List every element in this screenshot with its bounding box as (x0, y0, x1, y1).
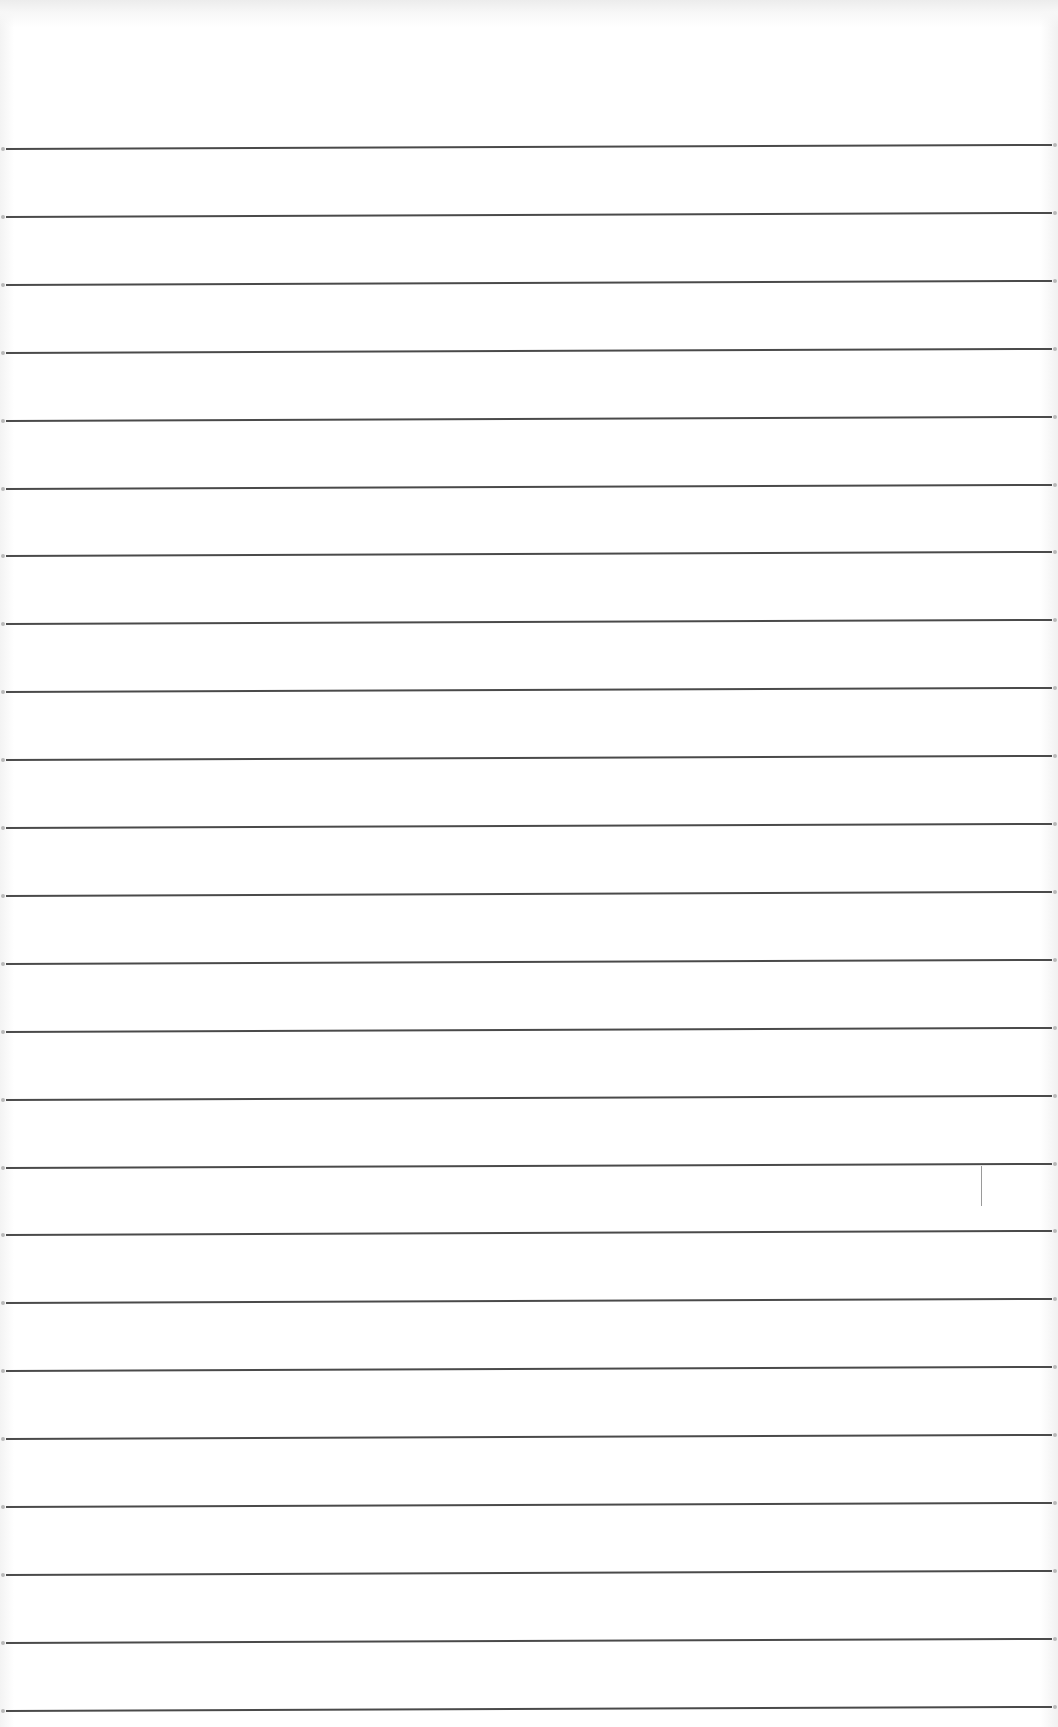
ruled-line (6, 687, 1052, 693)
ruled-line (6, 1570, 1052, 1576)
paper-top-edge (0, 0, 1058, 28)
ruled-line (6, 1502, 1052, 1508)
ruled-line (6, 1638, 1052, 1644)
ruled-line (6, 1163, 1052, 1169)
ruled-line (6, 212, 1052, 218)
ruled-line (6, 891, 1052, 897)
ruled-line (6, 416, 1052, 422)
ruled-line (6, 619, 1052, 625)
ruled-line (6, 1434, 1052, 1440)
ruled-line (6, 1366, 1052, 1372)
ruled-line (6, 755, 1052, 761)
ruled-line (6, 1298, 1052, 1304)
ruled-line (6, 484, 1052, 490)
lined-paper-page (0, 0, 1058, 1727)
ruled-line (6, 959, 1052, 965)
ruled-line (6, 1230, 1052, 1236)
ruled-line (6, 144, 1052, 150)
stray-pencil-mark (981, 1166, 982, 1206)
ruled-line (6, 1706, 1052, 1712)
ruled-line (6, 348, 1052, 354)
ruled-line (6, 1095, 1052, 1101)
ruled-line (6, 823, 1052, 829)
ruled-line (6, 551, 1052, 557)
ruled-line (6, 1027, 1052, 1033)
ruled-line (6, 280, 1052, 286)
